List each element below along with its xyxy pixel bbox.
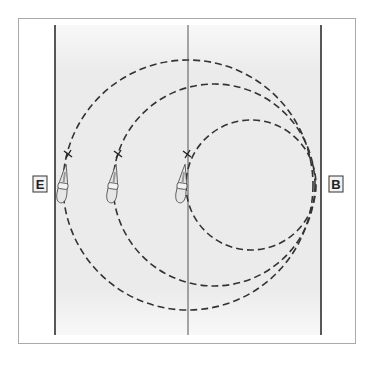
marker-b-label: B xyxy=(331,177,340,192)
marker-e-label: E xyxy=(36,177,45,192)
marker-e: E xyxy=(33,176,47,192)
marker-b: B xyxy=(329,176,343,192)
arena-diagram: E B xyxy=(0,0,365,369)
